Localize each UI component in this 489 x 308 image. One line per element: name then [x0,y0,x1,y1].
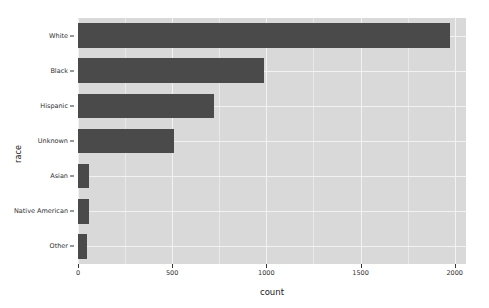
gridline-major-horizontal [78,246,466,247]
x-tick-mark [266,264,267,268]
bar-asian [78,164,89,189]
x-tick-label-1000: 1000 [258,269,275,277]
x-tick-label-0: 0 [76,269,80,277]
y-tick-mark [70,105,74,106]
y-tick-mark [70,211,74,212]
bar-unknown [78,129,174,154]
y-tick-label-white: White [49,32,68,40]
bar-chart: race WhiteBlackHispanicUnknownAsianNativ… [0,0,489,308]
y-tick-mark [70,70,74,71]
x-tick-label-500: 500 [166,269,178,277]
y-tick-label-asian: Asian [50,172,68,180]
x-tick-mark [361,264,362,268]
y-tick-label-native-american: Native American [14,207,68,215]
plot-panel [78,18,466,264]
bar-other [78,234,87,259]
y-tick-label-black: Black [50,67,68,75]
x-axis-ticks: 0500100015002000 [78,264,466,284]
y-tick-mark [70,35,74,36]
gridline-major-horizontal [78,176,466,177]
x-tick-label-1500: 1500 [352,269,369,277]
y-tick-label-other: Other [50,242,68,250]
gridline-major-horizontal [78,211,466,212]
y-tick-label-hispanic: Hispanic [40,102,68,110]
x-tick-label-2000: 2000 [446,269,463,277]
x-axis-title: count [78,287,466,297]
y-axis-tick-labels: WhiteBlackHispanicUnknownAsianNative Ame… [0,18,74,264]
bar-native-american [78,199,89,224]
x-tick-mark [78,264,79,268]
y-tick-mark [70,141,74,142]
y-tick-mark [70,176,74,177]
x-tick-mark [455,264,456,268]
bar-hispanic [78,94,214,119]
x-tick-mark [172,264,173,268]
bar-black [78,58,264,83]
y-tick-mark [70,246,74,247]
y-tick-label-unknown: Unknown [38,137,68,145]
bar-white [78,23,450,48]
